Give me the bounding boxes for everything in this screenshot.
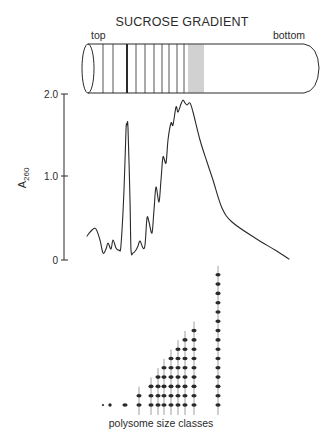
ribosome	[155, 403, 160, 407]
ribosome	[215, 310, 220, 314]
absorbance-curve	[87, 100, 289, 259]
ribosome	[215, 394, 220, 398]
ribosome	[175, 357, 180, 361]
polysome-class	[136, 387, 141, 415]
ribosome	[191, 338, 196, 342]
ribosome	[168, 357, 173, 361]
tube-bottom-label: bottom	[273, 29, 305, 41]
ribosome	[148, 394, 153, 398]
ribosome	[215, 375, 220, 379]
polysome-class	[191, 322, 196, 415]
tube-opening	[82, 44, 94, 93]
ribosome	[215, 357, 220, 361]
y-axis-label: A260	[16, 167, 31, 188]
ribosome	[161, 366, 166, 370]
polysome-class	[102, 404, 104, 406]
ribosome	[168, 375, 173, 379]
ribosome	[191, 385, 196, 389]
ribosome	[191, 375, 196, 379]
ribosome	[161, 403, 166, 407]
ribosome	[191, 329, 196, 333]
polysome-class	[168, 350, 173, 416]
ribosome	[168, 366, 173, 370]
y-tick-2: 2.0	[44, 89, 58, 100]
ribosome	[215, 320, 220, 324]
ribosome	[168, 385, 173, 389]
tube-top-label: top	[91, 29, 106, 41]
ribosome	[182, 385, 187, 389]
y-tick-1: 1.0	[44, 171, 58, 182]
ribosome	[161, 385, 166, 389]
ribosome	[155, 385, 160, 389]
polysome-class	[108, 403, 111, 406]
ribosome	[215, 403, 220, 407]
ribosome	[215, 282, 220, 286]
ribosome	[182, 394, 187, 398]
ribosome	[215, 292, 220, 296]
ribosome	[182, 347, 187, 351]
polysome-label: polysome size classes	[109, 417, 213, 429]
polysome-class	[155, 368, 160, 415]
ribosome	[175, 375, 180, 379]
ribosome	[148, 385, 153, 389]
svg-text:A260: A260	[16, 167, 31, 188]
ribosome	[215, 273, 220, 277]
ribosome	[215, 366, 220, 370]
ribosome	[191, 347, 196, 351]
ribosome	[175, 385, 180, 389]
ribosome	[136, 403, 141, 407]
ribosome	[215, 301, 220, 305]
polysome-class	[161, 359, 166, 415]
ribosome	[191, 366, 196, 370]
figure-title: SUCROSE GRADIENT	[115, 15, 248, 29]
polysome-class	[215, 266, 220, 415]
ribosome	[182, 338, 187, 342]
ribosome	[161, 375, 166, 379]
ribosome	[136, 394, 141, 398]
ribosome	[215, 329, 220, 333]
ribosome	[148, 403, 153, 407]
polysome-class	[175, 340, 180, 415]
ribosome	[161, 394, 166, 398]
ribosome	[182, 366, 187, 370]
ribosome	[155, 394, 160, 398]
ribosome	[215, 385, 220, 389]
tube-outline	[88, 44, 319, 93]
centrifuge-tube: top bottom	[82, 29, 319, 93]
ribosome	[175, 394, 180, 398]
polysome-size-classes	[102, 266, 221, 415]
ribosome	[215, 338, 220, 342]
ribosome	[168, 394, 173, 398]
ribosome	[215, 347, 220, 351]
polysome-class	[122, 403, 127, 407]
ribosome	[182, 357, 187, 361]
ribosome	[191, 403, 196, 407]
y-tick-0: 0	[52, 255, 58, 266]
ribosome	[175, 403, 180, 407]
ribosome	[182, 375, 187, 379]
y-label-sub: 260	[22, 167, 31, 181]
ribosome	[168, 403, 173, 407]
polysome-class	[182, 331, 187, 415]
ribosome	[155, 375, 160, 379]
ribosome	[175, 347, 180, 351]
ribosome	[175, 366, 180, 370]
ribosome	[191, 394, 196, 398]
ribosome	[182, 403, 187, 407]
ribosome	[191, 357, 196, 361]
y-axis	[61, 94, 68, 260]
sucrose-gradient-figure: SUCROSE GRADIENT top bottom 2.0 1.0 0 A2…	[0, 0, 335, 442]
gradient-bands	[103, 44, 203, 93]
polysome-class	[148, 377, 153, 415]
